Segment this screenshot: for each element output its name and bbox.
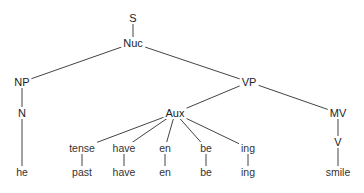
leaf-smile: smile — [324, 166, 353, 178]
leaf-en: en — [157, 166, 173, 178]
tree-edges — [0, 0, 364, 193]
leaf-he: he — [14, 166, 30, 178]
edge-nuc-vp — [133, 43, 249, 82]
leaf-ing: ing — [239, 166, 257, 178]
edge-vp-mv — [249, 82, 338, 113]
node-v: V — [332, 136, 343, 148]
leaf-be: be — [198, 166, 214, 178]
node-n: N — [16, 107, 28, 119]
node-tense: tense — [67, 142, 97, 154]
edge-nuc-np — [22, 43, 133, 82]
leaf-past: past — [70, 166, 94, 178]
syntax-tree-diagram: S Nuc NP N he VP Aux tense past have hav… — [0, 0, 364, 193]
node-np: NP — [12, 76, 31, 88]
node-nuc: Nuc — [121, 37, 145, 49]
leaf-have: have — [111, 166, 138, 178]
node-be: be — [198, 142, 214, 154]
node-mv: MV — [328, 107, 349, 119]
node-have: have — [111, 142, 138, 154]
node-vp: VP — [240, 76, 259, 88]
node-ing: ing — [239, 142, 257, 154]
node-aux: Aux — [164, 107, 187, 119]
node-en: en — [157, 142, 173, 154]
node-s: S — [127, 12, 138, 24]
